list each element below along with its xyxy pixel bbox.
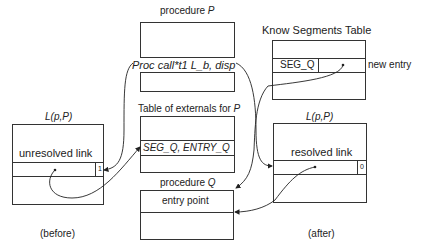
procedure-q-title-var: Q [208, 177, 216, 188]
resolved-flag: 0 [360, 161, 364, 173]
entry-point-label: entry point [162, 195, 209, 207]
linkage-before-row-bottom [12, 176, 104, 177]
unresolved-link-label: unresolved link [19, 147, 92, 159]
linkage-before-title: L(p,P) [45, 111, 72, 123]
externals-entry: SEG_Q, ENTRY_Q [143, 142, 230, 154]
call-to-resolved-arrow [236, 63, 272, 166]
linkage-before-table [12, 124, 104, 205]
procedure-p-body [140, 22, 235, 58]
known-segments-title: Know Segments Table [262, 24, 371, 36]
resolved-link-label: resolved link [291, 146, 352, 158]
known-segments-entry: SEG_Q [280, 59, 314, 71]
externals-table-title-text: Table of externals for [138, 103, 234, 114]
linkage-before-flag-divider [95, 162, 96, 176]
unresolved-flag: 1 [98, 163, 102, 175]
linkage-after-table [273, 123, 367, 203]
procedure-q-title: procedure Q [160, 177, 216, 189]
new-entry-annotation: new entry [368, 59, 411, 71]
linkage-after-row-top [273, 160, 367, 161]
before-caption: (before) [40, 228, 75, 240]
after-caption: (after) [308, 228, 335, 240]
proc-call-label: Proc call*t1 L_b, disp [132, 59, 235, 71]
procedure-p-call-slot [140, 72, 235, 92]
procedure-p-title-var: P [208, 5, 215, 16]
externals-table-title-var: P [234, 103, 241, 114]
procedure-q-divider [140, 212, 234, 213]
externals-row-divider-2 [140, 155, 235, 156]
procedure-p-title-text: procedure [160, 5, 208, 16]
call-to-unresolved-arrow [104, 63, 133, 170]
known-segments-cell-divider [318, 58, 319, 72]
procedure-p-title: procedure P [160, 5, 214, 17]
externals-row-divider-1 [140, 140, 235, 141]
linkage-after-row-bottom [273, 174, 367, 175]
linkage-after-title: L(p,P) [306, 111, 333, 123]
known-segments-row-bottom [272, 72, 366, 73]
externals-table-title: Table of externals for P [138, 103, 240, 115]
procedure-q-title-text: procedure [160, 177, 208, 188]
linkage-after-flag-divider [357, 160, 358, 174]
linkage-before-row-top [12, 162, 104, 163]
